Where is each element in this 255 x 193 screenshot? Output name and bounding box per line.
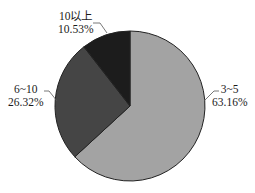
label-6-10: 6~10 26.32% [8,83,43,109]
leader-line-10-plus [93,23,107,33]
label-10-plus: 10以上 10.53% [58,10,93,36]
label-6-10-pct: 26.32% [8,96,43,109]
label-3-5: 3~5 63.16% [212,83,247,109]
label-3-5-pct: 63.16% [212,96,247,109]
label-3-5-name: 3~5 [212,83,247,96]
label-10-plus-pct: 10.53% [58,23,93,36]
label-10-plus-name: 10以上 [58,10,93,23]
label-6-10-name: 6~10 [8,83,43,96]
